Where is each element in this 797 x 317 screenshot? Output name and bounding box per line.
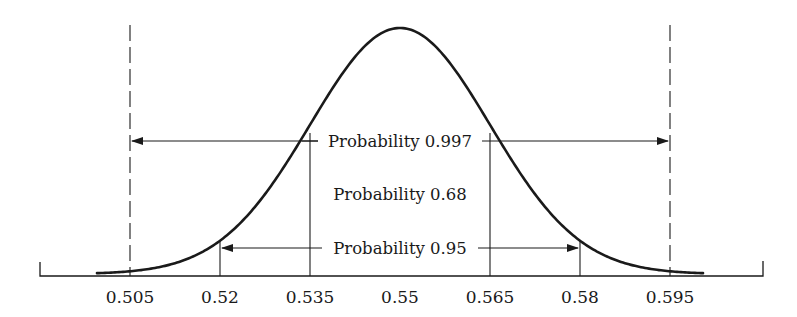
probability-997-label: Probability 0.997	[328, 132, 472, 151]
x-tick-label: 0.565	[466, 287, 515, 307]
normal-distribution-chart: 0.5050.520.5350.550.5650.580.595 Probabi…	[0, 0, 797, 317]
x-tick-label: 0.595	[646, 287, 695, 307]
x-tick-label: 0.535	[286, 287, 335, 307]
x-tick-label: 0.52	[201, 287, 239, 307]
x-tick-label: 0.505	[106, 287, 155, 307]
x-tick-label: 0.55	[381, 287, 419, 307]
probability-95-label: Probability 0.95	[333, 239, 467, 258]
x-tick-label: 0.58	[561, 287, 599, 307]
probability-68-label: Probability 0.68	[333, 185, 467, 204]
x-axis-tick-labels: 0.5050.520.5350.550.5650.580.595	[106, 287, 695, 307]
